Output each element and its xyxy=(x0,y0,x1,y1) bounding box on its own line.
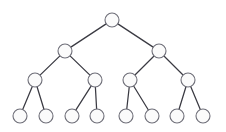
tree-node xyxy=(196,109,210,123)
tree-edge xyxy=(23,86,33,109)
tree-node xyxy=(65,109,79,123)
tree-node xyxy=(90,109,104,123)
tree-node xyxy=(152,44,166,58)
tree-node xyxy=(105,13,119,27)
tree-node xyxy=(123,73,137,87)
tree-edge xyxy=(135,56,154,75)
tree-diagram-figure xyxy=(0,0,226,132)
tree-node xyxy=(170,109,184,123)
tree-edge-layer xyxy=(23,24,201,110)
tree-node xyxy=(145,109,159,123)
tree-edge xyxy=(37,87,44,110)
tree-edge xyxy=(179,87,186,110)
tree-edge xyxy=(118,24,153,47)
tree-node xyxy=(88,73,102,87)
tree-edge xyxy=(191,86,201,109)
tree-node xyxy=(58,44,72,58)
tree-edge xyxy=(95,87,96,109)
tree-node xyxy=(181,73,195,87)
tree-edge xyxy=(40,56,60,75)
tree-edge xyxy=(164,56,183,75)
tree-edge xyxy=(134,86,149,110)
tree-node xyxy=(13,109,27,123)
tree-edge xyxy=(76,86,91,110)
tree-diagram-canvas xyxy=(0,0,226,132)
tree-edge xyxy=(127,87,129,109)
tree-node xyxy=(28,73,42,87)
tree-node xyxy=(119,109,133,123)
tree-edge xyxy=(71,24,106,47)
tree-edge xyxy=(70,56,90,75)
tree-node xyxy=(39,109,53,123)
